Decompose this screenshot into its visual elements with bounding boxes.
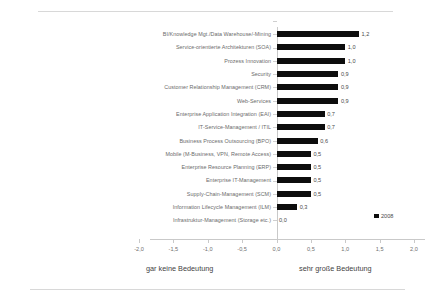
chart-row: Business Process Outsourcing (BPO)0,6 [0, 134, 431, 147]
chart-row: Supply-Chain-Management (SCM)0,5 [0, 187, 431, 200]
zero-axis-tick [273, 141, 277, 142]
x-axis-tick [208, 239, 209, 243]
chart-bar [277, 124, 325, 130]
bar-value-label: 0,9 [341, 84, 349, 90]
bar-value-label: 0,9 [341, 98, 349, 104]
x-axis-tick-label: -1,5 [169, 246, 179, 252]
chart-bar [277, 31, 360, 37]
x-axis-line [150, 239, 425, 240]
chart-bar [277, 177, 311, 183]
x-axis-tick-label: 1,0 [341, 246, 349, 252]
x-axis-tick [380, 239, 381, 243]
chart-row: Security0,9 [0, 67, 431, 80]
zero-axis-tick [273, 154, 277, 155]
zero-axis-tick [273, 220, 277, 221]
zero-axis-tick [273, 61, 277, 62]
bar-value-label: 0,7 [327, 124, 335, 130]
category-label: Information Lifecycle Management (ILM) [173, 204, 271, 210]
legend: 2008 [374, 213, 393, 219]
bar-value-label: 0,6 [320, 138, 328, 144]
x-axis-tick-label: 0,0 [273, 246, 281, 252]
category-label: Customer Relationship Management (CRM) [164, 84, 271, 90]
x-axis-tick-label: 0,5 [307, 246, 315, 252]
legend-swatch-2008 [374, 214, 379, 219]
zero-axis-tick [273, 114, 277, 115]
chart-row: Service-orientierte Architekturen (SOA)1… [0, 41, 431, 54]
x-axis-tick [345, 239, 346, 243]
chart-bar [277, 151, 311, 157]
chart-row: Enterprise Resource Planning (ERP)0,5 [0, 161, 431, 174]
legend-label-2008: 2008 [381, 213, 393, 219]
chart-row: IT-Service-Management / ITIL0,7 [0, 121, 431, 134]
bar-value-label: 1,0 [348, 58, 356, 64]
x-axis-tick [242, 239, 243, 243]
bar-value-label: 0,5 [313, 177, 321, 183]
bar-value-label: 0,9 [341, 71, 349, 77]
x-axis-tick [173, 239, 174, 243]
axis-caption-left: gar keine Bedeutung [146, 264, 213, 273]
bar-value-label: 0,5 [313, 191, 321, 197]
zero-axis-tick [273, 34, 277, 35]
zero-axis-tick [273, 48, 277, 49]
chart-bar [277, 204, 298, 210]
chart-bar [277, 164, 311, 170]
category-label: Web-Services [237, 98, 271, 104]
chart-bar [277, 111, 325, 117]
chart-bar [277, 98, 339, 104]
x-axis-tick [277, 239, 278, 243]
category-label: Service-orientierte Architekturen (SOA) [176, 44, 271, 50]
chart-row: Customer Relationship Management (CRM)0,… [0, 81, 431, 94]
category-label: Infrastruktur-Management (Storage etc.) [173, 217, 271, 223]
zero-axis-tick [273, 167, 277, 168]
x-axis-tick-label: -1,0 [203, 246, 213, 252]
category-label: Enterprise IT-Management [206, 177, 271, 183]
x-axis-tick-label: -2,0 [134, 246, 144, 252]
zero-axis-tick [273, 194, 277, 195]
category-label: Supply-Chain-Management (SCM) [187, 191, 271, 197]
chart-row: Enterprise IT-Management0,5 [0, 174, 431, 187]
x-axis-tick [414, 239, 415, 243]
chart-row: Web-Services0,9 [0, 94, 431, 107]
zero-axis-tick [273, 101, 277, 102]
zero-axis-tick [273, 127, 277, 128]
chart-row: BI/Knowledge Mgt./Data Warehouse/-Mining… [0, 28, 431, 41]
chart-row: Information Lifecycle Management (ILM)0,… [0, 200, 431, 213]
chart-row: Infrastruktur-Management (Storage etc.)0… [0, 214, 431, 227]
category-label: Enterprise Application Integration (EAI) [176, 111, 271, 117]
chart-bar [277, 58, 346, 64]
bar-value-label: 1,0 [348, 44, 356, 50]
category-label: Mobile (M-Business, VPN, Remote Access) [165, 151, 271, 157]
bar-chart: BI/Knowledge Mgt./Data Warehouse/-Mining… [0, 0, 431, 297]
chart-row: Prozess Innovation1,0 [0, 54, 431, 67]
category-label: BI/Knowledge Mgt./Data Warehouse/-Mining [163, 31, 271, 37]
bar-value-label: 1,2 [362, 31, 370, 37]
category-label: Enterprise Resource Planning (ERP) [182, 164, 272, 170]
x-axis-tick-label: -0,5 [237, 246, 247, 252]
zero-axis-tick [273, 21, 277, 22]
category-label: Security [251, 71, 271, 77]
category-label: IT-Service-Management / ITIL [198, 124, 271, 130]
axis-caption-right: sehr große Bedeutung [299, 264, 372, 273]
chart-bar [277, 138, 318, 144]
bar-value-label: 0,5 [313, 151, 321, 157]
zero-axis-tick [273, 87, 277, 88]
bar-value-label: 0,7 [327, 111, 335, 117]
bar-value-label: 0,3 [300, 204, 308, 210]
bar-value-label: 0,0 [279, 217, 287, 223]
chart-bar [277, 71, 339, 77]
x-axis-tick-label: 1,5 [376, 246, 384, 252]
x-axis-tick [311, 239, 312, 243]
chart-bar [277, 84, 339, 90]
chart-row: Mobile (M-Business, VPN, Remote Access)0… [0, 147, 431, 160]
x-axis-tick [139, 239, 140, 243]
zero-axis-tick [273, 74, 277, 75]
chart-row: Enterprise Application Integration (EAI)… [0, 107, 431, 120]
zero-axis-tick [273, 181, 277, 182]
category-label: Prozess Innovation [224, 58, 271, 64]
bottom-divider [30, 289, 405, 290]
bar-value-label: 0,5 [313, 164, 321, 170]
zero-axis-tick [273, 207, 277, 208]
chart-bar [277, 191, 311, 197]
category-label: Business Process Outsourcing (BPO) [179, 138, 271, 144]
chart-bar [277, 44, 346, 50]
